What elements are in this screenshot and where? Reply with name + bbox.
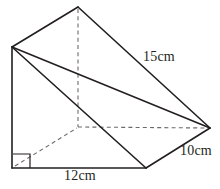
hidden-edge-back-base-horizontal	[78, 127, 208, 128]
edge-front-apex-to-back-bottom-right	[12, 47, 210, 128]
prism-figure: 15cm 10cm 12cm m	[0, 0, 220, 189]
dimension-label-base-12cm: 12cm	[64, 169, 96, 183]
hidden-edge-back-base-diagonal	[15, 128, 77, 166]
edge-front-apex-to-front-bottom-right	[12, 47, 146, 168]
dimension-label-slant-15cm: 15cm	[143, 50, 175, 64]
prism-drawing	[0, 0, 220, 189]
edge-back-apex-to-back-bottom-right	[78, 7, 210, 128]
edge-front-apex-to-back-apex	[12, 7, 78, 47]
dimension-label-depth-10cm: 10cm	[180, 144, 212, 158]
